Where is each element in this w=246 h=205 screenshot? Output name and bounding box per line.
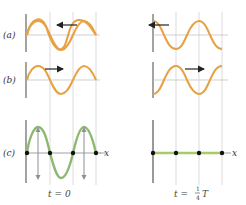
- panel-c-right: [151, 120, 231, 183]
- node-dot: [174, 151, 178, 155]
- label-b: (b): [3, 75, 16, 85]
- svg-text:t =: t =: [174, 189, 188, 199]
- label-a: (a): [3, 30, 16, 40]
- node-dot: [48, 151, 52, 155]
- caption-right: t = 1 4 T: [174, 185, 209, 201]
- node-dot: [71, 151, 75, 155]
- x-axis-label-left: x: [104, 148, 109, 158]
- panel-b-right: [153, 62, 228, 98]
- node-dot: [197, 151, 201, 155]
- x-axis-label-right: x: [232, 148, 237, 158]
- right-gridlines: [176, 12, 222, 185]
- svg-text:1: 1: [196, 185, 200, 192]
- panel-c-left: [25, 120, 105, 183]
- node-dot: [220, 151, 224, 155]
- panel-b-left: [26, 62, 100, 98]
- panel-a-right: [149, 14, 228, 52]
- left-gridlines: [50, 12, 96, 185]
- caption-left: t = 0: [48, 189, 71, 199]
- panel-a-left: [26, 14, 100, 52]
- node-dot: [94, 151, 98, 155]
- node-dot: [25, 151, 29, 155]
- svg-text:4: 4: [196, 194, 200, 201]
- label-c: (c): [3, 148, 16, 158]
- node-dot: [151, 151, 155, 155]
- svg-text:T: T: [202, 189, 209, 199]
- standing-wave-diagram: (a) (b) (c) x x t = 0 t = 1 4 T: [0, 0, 246, 205]
